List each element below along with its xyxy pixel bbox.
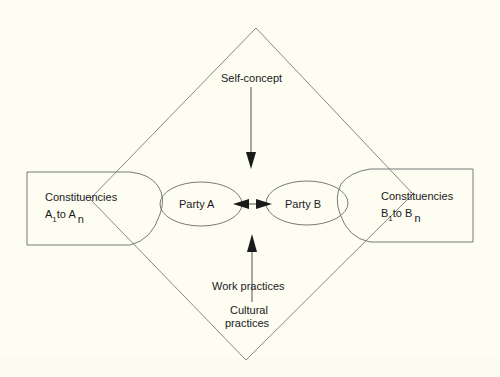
range-end-subscript: n <box>78 213 84 225</box>
party-a-label: Party A <box>179 198 214 211</box>
range-start-subscript: 1 <box>52 215 56 224</box>
range-to: to <box>393 207 402 219</box>
range-end-letter: B <box>405 207 412 219</box>
constituencies-a-title: Constituencies <box>45 191 117 204</box>
cultural-label-line1: Cultural <box>230 304 268 317</box>
constituencies-b-range: B1to Bn <box>381 207 421 221</box>
arrowhead-to-party-b <box>256 199 272 209</box>
range-start-subscript: 1 <box>388 214 392 223</box>
constituencies-a-range: A1to An <box>45 208 84 222</box>
range-to: to <box>57 208 66 220</box>
work-practices-label: Work practices <box>212 280 285 293</box>
self-concept-label: Self-concept <box>221 72 282 85</box>
cultural-label-line2: practices <box>225 317 269 330</box>
constituencies-b-shape <box>337 169 473 242</box>
self-concept-arrowhead <box>246 152 256 169</box>
range-end-letter: A <box>68 208 75 220</box>
party-b-label: Party B <box>285 198 321 211</box>
work-practices-arrowhead <box>247 234 257 252</box>
constituencies-b-title: Constituencies <box>381 190 453 203</box>
range-end-subscript: n <box>414 212 420 224</box>
arrowhead-to-party-a <box>233 199 249 209</box>
